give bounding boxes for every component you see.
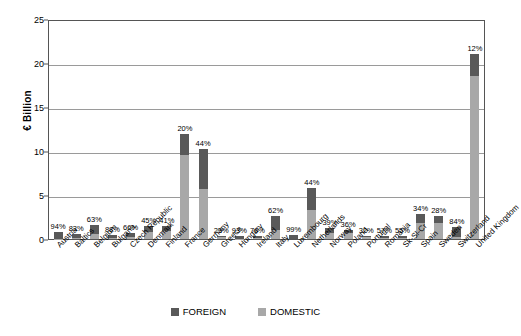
bar-slot: 34% [412,21,430,239]
bar-slot: 63% [85,21,103,239]
y-axis-tick-label: 0 [18,235,44,245]
bar-value-label: 20% [177,124,192,133]
stacked-bar[interactable]: 12% [470,54,479,239]
bar-value-label: 99% [286,225,301,234]
bar-slot: 83% [67,21,85,239]
legend: FOREIGNDOMESTIC [0,306,491,317]
legend-item[interactable]: FOREIGN [171,306,226,317]
bar-slot: 76% [248,21,266,239]
bar-slot: 62% [267,21,285,239]
bar-group: 94%83%63%88%66%45%41%20%44%23%93%76%62%9… [49,21,484,239]
bar-slot: 88% [103,21,121,239]
bar-slot: 20% [176,21,194,239]
y-axis-ticks: 0510152025 [18,0,44,336]
bar-slot: 55% [393,21,411,239]
bar-value-label: 34% [413,204,428,213]
bar-value-label: 62% [268,206,283,215]
bar-segment-foreign [199,149,208,189]
bar-slot: 12% [466,21,484,239]
bar-slot: 93% [230,21,248,239]
legend-item[interactable]: DOMESTIC [258,306,320,317]
y-axis-tick-mark [44,240,48,241]
y-axis-tick-mark [44,196,48,197]
plot-area: 94%83%63%88%66%45%41%20%44%23%93%76%62%9… [48,20,485,240]
bar-value-label: 28% [431,206,446,215]
bar-slot: 32% [357,21,375,239]
bar-slot: 44% [303,21,321,239]
bar-value-label: 44% [196,139,211,148]
y-axis-tick-mark [44,20,48,21]
bar-segment-foreign [470,54,479,76]
bar-slot: 66% [122,21,140,239]
bar-slot: 45% [140,21,158,239]
legend-label: DOMESTIC [270,306,320,317]
bar-slot: 39% [321,21,339,239]
x-axis-labels: AustriaBalticsBelgiumBulgariaCzech Repub… [48,241,485,311]
bar-value-label: 63% [87,215,102,224]
bar-slot: 57% [375,21,393,239]
bar-segment-foreign [307,188,316,210]
legend-swatch [171,308,179,316]
y-axis-tick-mark [44,152,48,153]
bar-slot: 94% [49,21,67,239]
bar-slot: 36% [339,21,357,239]
y-axis-tick-label: 15 [18,103,44,113]
y-axis-tick-label: 10 [18,147,44,157]
bar-value-label: 94% [51,222,66,231]
legend-label: FOREIGN [183,306,226,317]
bar-slot: 44% [194,21,212,239]
bar-slot: 99% [285,21,303,239]
bar-slot: 28% [430,21,448,239]
bar-segment-foreign [180,134,189,155]
bar-slot: 84% [448,21,466,239]
y-axis-tick-label: 5 [18,191,44,201]
y-axis-tick-mark [44,108,48,109]
bar-value-label: 44% [304,178,319,187]
y-axis-tick-mark [44,64,48,65]
y-axis-tick-label: 25 [18,15,44,25]
bar-slot: 23% [212,21,230,239]
bar-segment-domestic [470,76,479,239]
legend-swatch [258,308,266,316]
bar-value-label: 12% [467,44,482,53]
y-axis-tick-label: 20 [18,59,44,69]
